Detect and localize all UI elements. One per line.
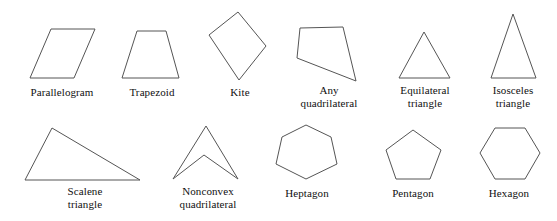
shape-trapezoid [122,31,179,78]
label-nonconvex-quadrilateral: Nonconvex quadrilateral [163,185,253,210]
shape-nonconvex-quadrilateral [173,126,238,179]
shape-equilateral-triangle [399,32,450,78]
shape-parallelogram [30,29,95,78]
shape-scalene-triangle [25,128,140,180]
label-equilateral-triangle: Equilateral triangle [382,84,468,109]
shape-kite [209,12,266,80]
label-parallelogram: Parallelogram [12,86,112,99]
label-trapezoid: Trapezoid [112,86,192,99]
shape-hexagon [480,128,540,179]
label-isosceles-triangle: Isosceles triangle [473,84,553,109]
shape-pentagon [386,130,441,179]
shape-heptagon [276,125,337,179]
label-hexagon: Hexagon [470,187,548,200]
label-pentagon: Pentagon [374,187,452,200]
label-scalene-triangle: Scalene triangle [40,185,130,210]
label-kite: Kite [211,86,269,99]
shape-any-quadrilateral [297,27,356,81]
label-any-quadrilateral: Any quadrilateral [286,84,372,109]
polygon-types-figure: ParallelogramTrapezoidKiteAny quadrilate… [0,0,557,221]
label-heptagon: Heptagon [268,187,346,200]
shape-isosceles-triangle [491,14,536,78]
